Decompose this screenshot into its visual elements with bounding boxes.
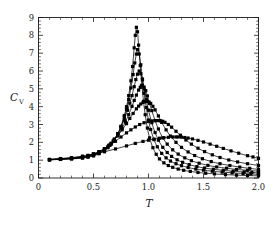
data-point	[125, 144, 128, 147]
data-point	[155, 153, 158, 156]
data-point	[206, 164, 209, 167]
data-point	[201, 157, 204, 160]
data-point	[182, 169, 185, 172]
y-axis-label-subscript: V	[18, 98, 24, 106]
data-point	[193, 154, 196, 157]
data-point	[147, 109, 150, 112]
data-point	[147, 120, 150, 123]
plot-background	[0, 0, 278, 225]
data-point	[228, 164, 231, 167]
data-point	[229, 149, 232, 152]
data-point	[212, 168, 215, 171]
data-point	[134, 34, 137, 37]
data-point	[167, 123, 170, 126]
data-point	[131, 65, 134, 68]
data-point	[130, 94, 133, 97]
data-point	[250, 171, 253, 174]
cv-vs-t-plot: 00.51.01.52.0 0123456789 T C V	[0, 0, 278, 225]
data-point	[152, 138, 155, 141]
data-point	[215, 145, 218, 148]
data-point	[225, 167, 228, 170]
data-point	[92, 153, 95, 156]
y-tick-label: 9	[29, 13, 34, 23]
data-point	[243, 170, 246, 173]
y-tick-label: 7	[29, 48, 34, 58]
data-point	[187, 136, 190, 139]
data-point	[144, 89, 147, 92]
data-point	[149, 102, 152, 105]
data-point	[195, 165, 198, 168]
data-point	[143, 85, 146, 88]
data-point	[125, 122, 128, 125]
data-point	[143, 121, 146, 124]
x-tick-label: 2.0	[252, 182, 265, 192]
data-point	[187, 166, 190, 169]
data-point	[165, 128, 168, 131]
y-tick-label: 0	[29, 173, 34, 183]
y-tick-label: 3	[29, 120, 34, 130]
data-point	[149, 128, 152, 131]
data-point	[161, 146, 164, 149]
data-point	[162, 136, 165, 139]
data-point	[127, 98, 130, 101]
data-point	[141, 78, 144, 81]
data-point	[257, 164, 260, 167]
x-tick-label: 1.0	[142, 182, 155, 192]
data-point	[165, 156, 168, 159]
data-point	[127, 94, 130, 97]
data-point	[190, 159, 193, 162]
data-point	[251, 155, 254, 158]
data-point	[162, 161, 165, 164]
data-point	[136, 48, 139, 51]
data-point	[129, 86, 132, 89]
data-point	[139, 72, 142, 75]
data-point	[189, 170, 192, 173]
x-tick-label: 0.5	[87, 182, 100, 192]
data-point	[180, 164, 183, 167]
data-point	[167, 136, 170, 139]
data-point	[235, 174, 238, 177]
data-point	[238, 166, 241, 169]
data-point	[134, 78, 137, 81]
y-tick-label: 4	[29, 102, 34, 112]
data-point	[170, 155, 173, 158]
data-point	[257, 168, 260, 171]
x-tick-label: 1.5	[197, 182, 210, 192]
data-point	[146, 94, 149, 97]
data-point	[128, 102, 131, 105]
data-point	[129, 128, 132, 131]
data-point	[126, 109, 129, 112]
data-point	[248, 167, 251, 170]
data-point	[133, 99, 136, 102]
data-point	[211, 153, 214, 156]
chart-figure: 00.51.01.52.0 0123456789 T C V	[0, 0, 278, 225]
data-point	[236, 160, 239, 163]
y-tick-label: 5	[29, 84, 34, 94]
data-point	[174, 141, 177, 144]
data-point	[169, 159, 172, 162]
data-point	[246, 174, 249, 177]
data-point	[191, 137, 194, 140]
data-point	[154, 131, 157, 134]
y-tick-label: 1	[29, 155, 34, 165]
data-point	[171, 166, 174, 169]
data-point	[187, 150, 190, 153]
data-point	[154, 108, 157, 111]
data-point	[157, 127, 160, 130]
data-point	[138, 52, 141, 55]
x-axis-label: T	[145, 197, 153, 209]
data-point	[138, 123, 141, 126]
data-point	[121, 128, 124, 131]
data-point	[129, 79, 132, 82]
data-point	[125, 131, 128, 134]
data-point	[135, 93, 138, 96]
data-point	[183, 136, 186, 139]
data-point	[139, 63, 142, 66]
data-point	[209, 143, 212, 146]
data-point	[163, 121, 166, 124]
data-point	[170, 126, 173, 129]
data-point	[196, 139, 199, 142]
data-point	[135, 52, 138, 55]
data-point	[130, 105, 133, 108]
data-point	[146, 126, 149, 129]
